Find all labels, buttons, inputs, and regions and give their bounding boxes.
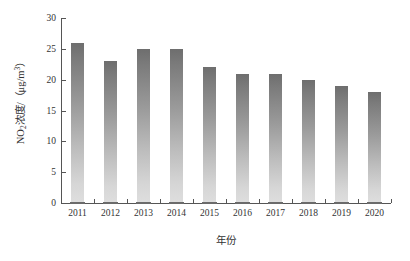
x-axis-tick-label: 2012 [101,208,120,218]
bar [335,86,348,203]
x-axis-tick-label: 2011 [68,208,87,218]
y-axis-tick-label: 30 [47,13,62,23]
x-axis-tick [193,199,194,203]
y-axis-tick [62,18,66,19]
chart-figure: NO2浓度/（μg/m3） 051015202530 2011201220132… [0,0,410,261]
y-axis-tick [62,172,66,173]
x-axis-tick [325,199,326,203]
bar-base-shadow [268,202,283,204]
x-axis-tick-label: 2016 [233,208,252,218]
bar-base-shadow [301,202,316,204]
y-axis-title-subscript: 2 [20,125,29,129]
x-axis-tick-label: 2014 [167,208,186,218]
bar-base-shadow [235,202,250,204]
x-axis-tick [358,199,359,203]
x-axis-tick [61,199,62,203]
x-axis-tick [391,199,392,203]
x-axis-tick [160,199,161,203]
bar [368,92,381,203]
bar-base-shadow [103,202,118,204]
bar [170,49,183,203]
y-axis-tick-label: 15 [47,106,62,116]
x-axis-tick [127,199,128,203]
plot-area: 051015202530 201120122013201420152016201… [61,18,391,204]
x-axis-tick [226,199,227,203]
x-axis-tick-label: 2013 [134,208,153,218]
x-axis-tick [94,199,95,203]
bar [203,67,216,203]
y-axis-tick-label: 5 [51,167,61,177]
x-axis-tick [292,199,293,203]
y-axis-tick [62,141,66,142]
y-axis-tick [62,49,66,50]
x-axis-title: 年份 [61,232,391,247]
y-axis-title-superscript: 3 [14,66,23,70]
y-axis-title-suffix: ） [16,56,27,66]
y-axis-tick-label: 25 [47,44,62,54]
bar-base-shadow [334,202,349,204]
bar [236,74,249,204]
bar-base-shadow [136,202,151,204]
bar-base-shadow [70,202,85,204]
bar [137,49,150,203]
bar-base-shadow [202,202,217,204]
y-axis-title-text: NO2浓度/（μg/m3） [13,56,28,144]
x-axis-tick [259,199,260,203]
bar [269,74,282,204]
y-axis-tick [62,203,66,204]
y-axis-title-mid: 浓度/（μg/m [16,70,27,125]
y-axis-tick [62,80,66,81]
y-axis-tick [62,111,66,112]
x-axis-tick-label: 2017 [266,208,285,218]
bar-base-shadow [367,202,382,204]
y-axis-title-prefix: NO [16,129,27,144]
bar-base-shadow [169,202,184,204]
bar [104,61,117,203]
x-axis-tick-label: 2015 [200,208,219,218]
y-axis-title: NO2浓度/（μg/m3） [0,0,40,200]
bar [302,80,315,203]
y-axis-tick-label: 0 [51,198,61,208]
x-axis-tick-label: 2020 [365,208,384,218]
x-axis-tick-label: 2018 [299,208,318,218]
bar [71,43,84,203]
y-axis-tick-label: 20 [47,75,62,85]
x-axis-tick-label: 2019 [332,208,351,218]
y-axis-tick-label: 10 [47,136,62,146]
